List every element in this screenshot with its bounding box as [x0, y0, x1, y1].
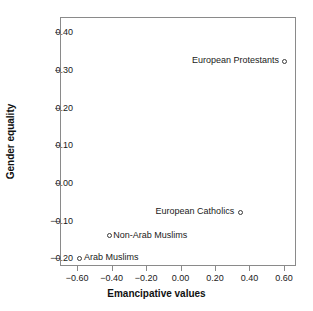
y-tick-label: 0.30 [39, 65, 73, 75]
y-tick-label: 0.20 [39, 103, 73, 113]
data-point-marker[interactable] [107, 233, 112, 238]
x-tick-mark [146, 266, 147, 271]
y-tick-label: 0.00 [39, 178, 73, 188]
x-tick-label: 0.00 [172, 273, 190, 283]
data-point-marker[interactable] [238, 210, 243, 215]
data-point-marker[interactable] [282, 59, 287, 64]
data-point-label: Arab Muslims [84, 253, 139, 262]
x-tick-label: 0.60 [275, 273, 293, 283]
x-tick-mark [112, 266, 113, 271]
y-tick-label: −0.20 [39, 253, 73, 263]
x-tick-label: 0.40 [241, 273, 259, 283]
x-tick-label: −0.40 [100, 273, 123, 283]
x-tick-label: −0.20 [135, 273, 158, 283]
y-axis-title-text: Gender equality [6, 104, 17, 180]
data-point-label: Non-Arab Muslims [113, 230, 187, 239]
y-tick-label: 0.40 [39, 27, 73, 37]
data-point-label: European Protestants [0, 56, 279, 65]
y-tick-label: −0.10 [39, 216, 73, 226]
x-tick-label: −0.60 [66, 273, 89, 283]
data-point-label: European Catholics [0, 207, 234, 216]
x-tick-mark [249, 266, 250, 271]
x-axis-title: Emancipative values [0, 288, 313, 299]
y-axis-title: Gender equality [4, 0, 18, 283]
data-point-marker[interactable] [77, 256, 82, 261]
y-tick-label: 0.10 [39, 140, 73, 150]
x-tick-mark [215, 266, 216, 271]
x-tick-mark [181, 266, 182, 271]
scatter-plot-figure: Gender equality Emancipative values −0.6… [0, 0, 313, 311]
x-tick-label: 0.20 [206, 273, 224, 283]
x-tick-mark [284, 266, 285, 271]
x-tick-mark [77, 266, 78, 271]
